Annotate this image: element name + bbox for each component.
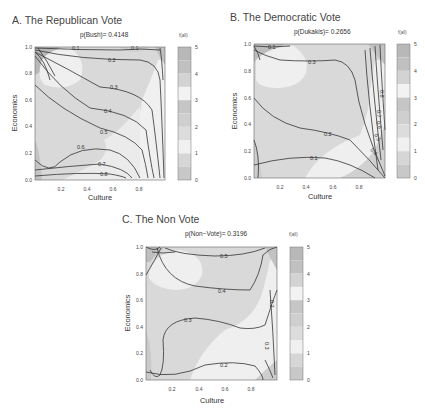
svg-text:3: 3	[195, 97, 198, 103]
svg-text:0.2: 0.2	[324, 131, 332, 137]
svg-text:0.1: 0.1	[72, 45, 80, 51]
svg-text:1.0: 1.0	[136, 244, 143, 250]
svg-text:0.8: 0.8	[248, 386, 255, 392]
panel-republican-vote: A. The Republican Vote p(Bush)= 0.4148 f…	[0, 0, 215, 200]
svg-text:0.1: 0.1	[268, 44, 276, 50]
svg-text:0.6: 0.6	[136, 297, 143, 303]
svg-text:0.2: 0.2	[169, 386, 176, 392]
svg-text:0.2: 0.2	[277, 184, 284, 190]
svg-text:1: 1	[414, 148, 417, 154]
svg-text:0.6: 0.6	[222, 386, 229, 392]
svg-text:0.3: 0.3	[110, 84, 118, 90]
svg-text:1.0: 1.0	[244, 41, 251, 47]
svg-text:0.8: 0.8	[244, 68, 251, 74]
svg-text:0.2: 0.2	[244, 148, 251, 154]
colorbar: 5 4 3 2 1 0	[290, 244, 310, 383]
svg-text:5: 5	[307, 244, 310, 250]
svg-text:2: 2	[414, 121, 417, 127]
svg-text:5: 5	[414, 41, 417, 47]
svg-text:0.8: 0.8	[379, 90, 385, 98]
svg-text:0.6: 0.6	[110, 186, 117, 192]
y-axis: 1.0 0.8 0.6 0.4 0.2 0.0 Economics	[230, 41, 251, 181]
svg-text:0.3: 0.3	[264, 342, 270, 350]
x-axis: 0.2 0.4 0.6 0.8 Culture	[169, 386, 255, 405]
svg-text:0.6: 0.6	[330, 184, 337, 190]
svg-text:0.2: 0.2	[25, 150, 32, 156]
svg-text:0.8: 0.8	[25, 70, 32, 76]
svg-text:0.4: 0.4	[104, 108, 112, 114]
svg-text:0: 0	[414, 175, 417, 181]
svg-text:1.0: 1.0	[25, 44, 32, 50]
svg-text:0.6: 0.6	[77, 144, 85, 150]
panel-non-vote: C. The Non Vote p(Non−Vote)= 0.3196 f(al…	[105, 200, 320, 416]
svg-text:1: 1	[195, 150, 198, 156]
svg-text:1: 1	[307, 350, 310, 356]
contour-plot: 0.1 0.3 0.2 0.1 0.7 0.6 0.5 0.4 0.8 1.0 …	[210, 0, 425, 200]
svg-text:3: 3	[414, 95, 417, 101]
svg-text:0.0: 0.0	[25, 177, 32, 183]
svg-text:Economics: Economics	[10, 94, 19, 131]
y-axis: 1.0 0.8 0.6 0.4 0.2 0.0 Economics	[10, 44, 32, 183]
svg-text:Economics: Economics	[230, 92, 239, 129]
svg-text:0.8: 0.8	[136, 271, 143, 277]
svg-text:0.7: 0.7	[376, 110, 382, 118]
svg-text:0.2: 0.2	[58, 186, 65, 192]
svg-text:0.1: 0.1	[310, 155, 318, 161]
svg-text:0.4: 0.4	[136, 324, 143, 330]
svg-text:4: 4	[195, 71, 198, 77]
colorbar: 5 4 3 2 1 0	[178, 44, 198, 183]
svg-text:0.2: 0.2	[220, 362, 228, 368]
colorbar: 5 4 3 2 1 0	[397, 41, 417, 181]
contour-plot: 0.1 0.1 0.2 0.3 0.4 0.5 0.6 0.7 0.8 1.0 …	[0, 0, 215, 200]
svg-text:0.2: 0.2	[269, 300, 275, 308]
svg-text:Economics: Economics	[123, 294, 132, 331]
fill-regions	[146, 247, 277, 380]
svg-text:2: 2	[195, 124, 198, 130]
svg-text:0.5: 0.5	[220, 253, 228, 259]
svg-text:0.4: 0.4	[303, 184, 310, 190]
svg-text:0.0: 0.0	[136, 377, 143, 383]
svg-text:4: 4	[414, 68, 417, 74]
panel-democratic-vote: B. The Democratic Vote p(Dukakis)= 0.265…	[210, 0, 425, 200]
svg-text:0.1: 0.1	[131, 45, 139, 51]
svg-text:0.4: 0.4	[84, 186, 91, 192]
svg-text:5: 5	[195, 44, 198, 50]
svg-text:0.6: 0.6	[244, 95, 251, 101]
svg-text:Culture: Culture	[200, 396, 224, 405]
svg-text:0.4: 0.4	[25, 123, 32, 129]
svg-text:0.3: 0.3	[184, 317, 192, 323]
svg-text:0.3: 0.3	[308, 59, 316, 65]
svg-text:0.4: 0.4	[196, 386, 203, 392]
svg-text:0: 0	[195, 177, 198, 183]
contour-plot: 0.5 0.4 0.3 0.2 0.2 0.3 1.0 0.8 0.6 0.4 …	[105, 200, 320, 416]
svg-text:0.4: 0.4	[218, 288, 226, 294]
svg-text:0: 0	[307, 377, 310, 383]
svg-text:0.4: 0.4	[244, 121, 251, 127]
y-axis: 1.0 0.8 0.6 0.4 0.2 0.0 Economics	[123, 244, 143, 383]
svg-text:0.5: 0.5	[100, 129, 108, 135]
svg-text:0.8: 0.8	[136, 186, 143, 192]
svg-text:0.8: 0.8	[356, 184, 363, 190]
x-axis: 0.2 0.4 0.6 0.8 Culture	[277, 184, 363, 201]
svg-text:2: 2	[307, 324, 310, 330]
svg-text:0.8: 0.8	[100, 171, 108, 177]
svg-text:0.2: 0.2	[108, 57, 116, 63]
svg-text:0.2: 0.2	[136, 350, 143, 356]
svg-text:0.0: 0.0	[244, 175, 251, 181]
svg-text:0.7: 0.7	[98, 161, 106, 167]
svg-text:4: 4	[307, 271, 310, 277]
svg-text:0.6: 0.6	[25, 97, 32, 103]
svg-text:3: 3	[307, 297, 310, 303]
